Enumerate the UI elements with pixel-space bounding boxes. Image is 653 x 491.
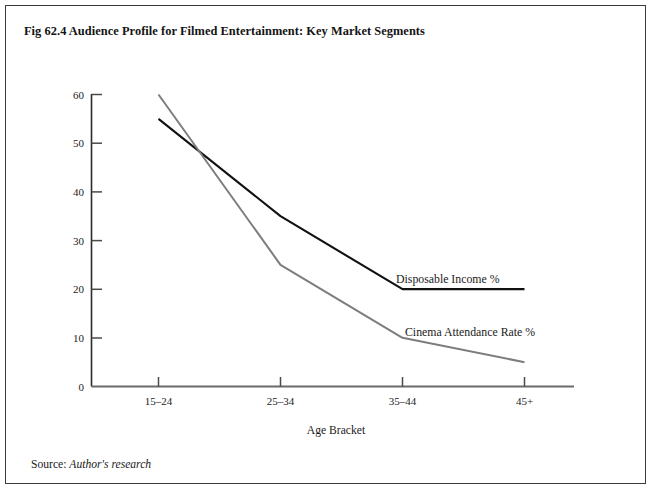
y-tick-label: 50 (73, 137, 85, 149)
source-note: Source: Author's research (31, 458, 151, 471)
y-tick-label: 60 (73, 89, 85, 101)
series-label-cinema-attendance: Cinema Attendance Rate % (405, 325, 535, 339)
y-tick-label: 30 (73, 235, 85, 247)
x-axis-title: Age Bracket (307, 424, 366, 437)
x-axis-tick-labels: 15–24 25–34 35–44 45+ (145, 395, 533, 407)
y-tick-label: 10 (73, 332, 85, 344)
y-axis-tick-labels: 60 50 40 30 20 10 0 (73, 89, 85, 393)
y-tick-label: 0 (79, 381, 85, 393)
x-tick-label: 15–24 (145, 395, 173, 407)
y-tick-label: 40 (73, 186, 85, 198)
series-line-cinema-attendance (159, 95, 525, 363)
y-axis-ticks (92, 95, 103, 339)
source-label: Source: (31, 458, 66, 471)
figure-frame: Fig 62.4 Audience Profile for Filmed Ent… (5, 5, 646, 484)
source-value: Author's research (69, 458, 151, 471)
series-line-disposable-income (159, 119, 525, 289)
x-tick-label: 35–44 (389, 395, 417, 407)
x-axis-ticks (159, 377, 525, 387)
x-tick-label: 25–34 (267, 395, 295, 407)
chart-plot-area: 60 50 40 30 20 10 0 15–24 25–34 35–44 45… (6, 6, 647, 485)
y-tick-label: 20 (73, 283, 85, 295)
x-tick-label: 45+ (516, 395, 533, 407)
series-label-disposable-income: Disposable Income % (396, 272, 500, 286)
